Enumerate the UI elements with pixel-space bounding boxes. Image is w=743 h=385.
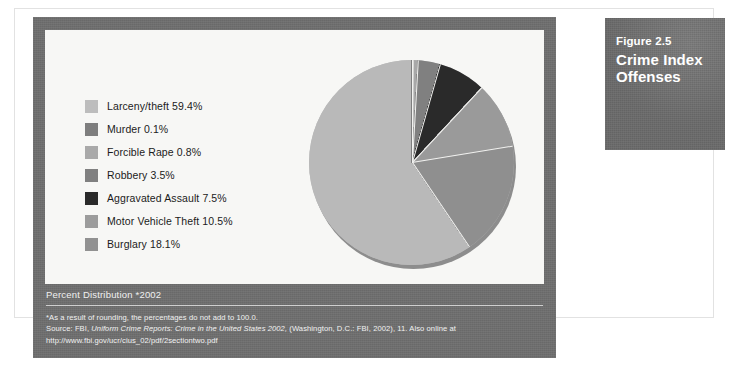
legend-swatch-icon bbox=[85, 146, 98, 159]
legend-swatch-icon bbox=[85, 169, 98, 182]
rounding-note: *As a result of rounding, the percentage… bbox=[46, 312, 546, 323]
legend-item: Robbery 3.5% bbox=[85, 164, 300, 187]
legend-label: Burglary 18.1% bbox=[107, 239, 180, 250]
legend-label: Murder 0.1% bbox=[107, 124, 168, 135]
legend-label: Robbery 3.5% bbox=[107, 170, 175, 181]
legend-swatch-icon bbox=[85, 238, 98, 251]
source-title: Uniform Crime Reports: Crime in the Unit… bbox=[91, 324, 287, 333]
legend-swatch-icon bbox=[85, 100, 98, 113]
legend-label: Motor Vehicle Theft 10.5% bbox=[107, 216, 233, 227]
figure-title-box: Figure 2.5 Crime Index Offenses bbox=[605, 18, 725, 150]
legend-label: Larceny/theft 59.4% bbox=[107, 101, 202, 112]
pie-chart bbox=[309, 60, 521, 272]
legend-item: Forcible Rape 0.8% bbox=[85, 141, 300, 164]
caption-notes: *As a result of rounding, the percentage… bbox=[46, 312, 546, 346]
figure-title-line-2: Offenses bbox=[616, 68, 703, 85]
figure-title-line-1: Crime Index bbox=[616, 51, 703, 68]
legend-label: Aggravated Assault 7.5% bbox=[107, 193, 227, 204]
legend-item: Murder 0.1% bbox=[85, 118, 300, 141]
figure-panel: Larceny/theft 59.4%Murder 0.1%Forcible R… bbox=[33, 17, 556, 358]
caption-divider bbox=[46, 305, 543, 306]
legend-item: Motor Vehicle Theft 10.5% bbox=[85, 210, 300, 233]
pie-slices bbox=[309, 60, 514, 265]
legend-item: Burglary 18.1% bbox=[85, 233, 300, 256]
legend-swatch-icon bbox=[85, 215, 98, 228]
legend-label: Forcible Rape 0.8% bbox=[107, 147, 201, 158]
legend-swatch-icon bbox=[85, 192, 98, 205]
source-suffix: (Washington, D.C.: FBI, 2002), 11. Also … bbox=[287, 324, 456, 333]
source-url[interactable]: http://www.fbi.gov/ucr/cius_02/pdf/2sect… bbox=[46, 335, 546, 346]
figure-number: Figure 2.5 bbox=[616, 35, 671, 47]
chart-legend: Larceny/theft 59.4%Murder 0.1%Forcible R… bbox=[85, 95, 300, 256]
legend-item: Larceny/theft 59.4% bbox=[85, 95, 300, 118]
legend-swatch-icon bbox=[85, 123, 98, 136]
legend-item: Aggravated Assault 7.5% bbox=[85, 187, 300, 210]
figure-title: Crime Index Offenses bbox=[616, 51, 703, 85]
chart-plot-area: Larceny/theft 59.4%Murder 0.1%Forcible R… bbox=[45, 30, 544, 284]
source-line: Source: FBI, Uniform Crime Reports: Crim… bbox=[46, 323, 546, 334]
source-prefix: Source: FBI, bbox=[46, 324, 91, 333]
caption-title: Percent Distribution *2002 bbox=[46, 289, 161, 300]
